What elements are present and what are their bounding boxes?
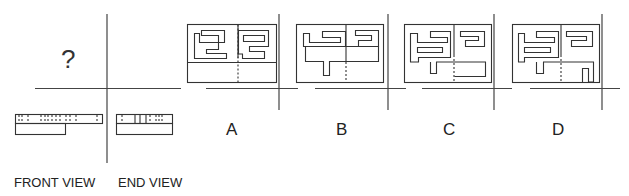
question-axes — [35, 14, 181, 163]
puzzle-drawing — [0, 0, 629, 196]
option-a-drawing[interactable] — [188, 14, 299, 110]
unknown-view-marker: ? — [61, 44, 75, 75]
option-a-label[interactable]: A — [226, 120, 237, 140]
option-c-label[interactable]: C — [443, 120, 455, 140]
option-d-label[interactable]: D — [552, 120, 564, 140]
option-d-drawing[interactable] — [513, 14, 621, 110]
end-view-caption: END VIEW — [118, 175, 182, 190]
end-view-drawing — [117, 115, 173, 135]
front-view-drawing — [16, 115, 103, 135]
option-b-label[interactable]: B — [336, 120, 347, 140]
option-c-drawing[interactable] — [405, 14, 513, 110]
front-view-caption: FRONT VIEW — [14, 175, 95, 190]
option-b-drawing[interactable] — [297, 14, 407, 110]
